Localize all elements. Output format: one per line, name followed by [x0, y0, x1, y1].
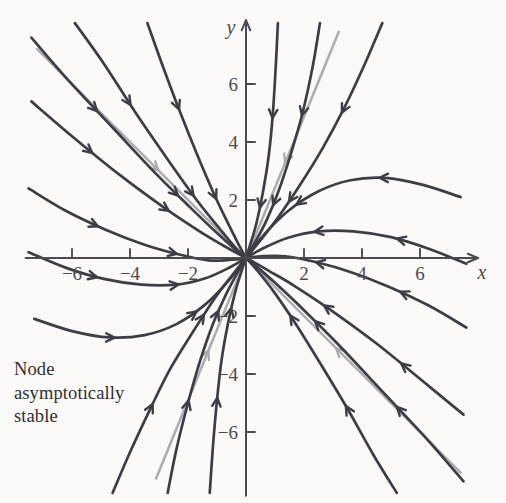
- x-axis-tick-label: 6: [415, 263, 425, 284]
- trajectory-curve: [31, 101, 246, 258]
- caption: Node asymptotically stable: [14, 358, 124, 429]
- phase-portrait-figure: −6−4−2246642−2−4−6xy Node asymptotically…: [0, 0, 506, 503]
- y-axis-tick-label: −4: [218, 364, 239, 385]
- y-axis-tick-label: −6: [218, 422, 238, 443]
- trajectory-curve: [246, 258, 464, 415]
- y-axis-tick-label: 4: [229, 132, 239, 153]
- y-axis-label: y: [225, 16, 236, 39]
- trajectory-curve: [246, 258, 397, 493]
- x-axis-tick-label: −4: [120, 263, 141, 284]
- caption-line-1: Node: [14, 358, 124, 382]
- y-axis-tick-label: 2: [229, 190, 239, 211]
- x-axis-tick-label: −6: [62, 263, 82, 284]
- x-axis-label: x: [477, 261, 487, 283]
- y-axis-tick-label: 6: [229, 74, 239, 95]
- y-axis-tick-label: −2: [218, 306, 238, 327]
- caption-line-2: asymptotically: [14, 382, 124, 406]
- x-axis-tick-label: 2: [299, 263, 309, 284]
- caption-line-3: stable: [14, 405, 124, 429]
- x-axis-tick-label: 4: [357, 263, 367, 284]
- x-axis-tick-label: −2: [178, 263, 198, 284]
